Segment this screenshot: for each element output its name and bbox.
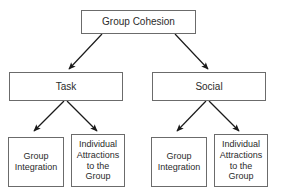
node-task-group-integration: Group Integration (8, 137, 64, 187)
node-social-individual-attractions-label: Individual Attractions to the Group (215, 139, 267, 181)
node-task-individual-attractions: Individual Attractions to the Group (71, 134, 125, 187)
node-group-cohesion: Group Cohesion (81, 10, 196, 34)
node-social-label: Social (153, 81, 265, 93)
group-cohesion-diagram: Group Cohesion Task Social Group Integra… (0, 0, 281, 195)
edge-root-to-social (175, 34, 208, 69)
node-group-cohesion-label: Group Cohesion (82, 16, 195, 28)
node-social: Social (152, 72, 266, 101)
edge-root-to-task (69, 34, 102, 69)
node-task-individual-attractions-label: Individual Attractions to the Group (72, 139, 124, 181)
node-social-group-integration-label: Group Integration (152, 151, 206, 172)
edge-social-to-individual-attractions (209, 101, 239, 131)
node-social-individual-attractions: Individual Attractions to the Group (214, 134, 268, 187)
edge-social-to-group-integration (177, 101, 206, 131)
edge-task-to-individual-attractions (67, 101, 97, 131)
node-task: Task (9, 72, 123, 101)
node-task-label: Task (10, 81, 122, 93)
node-task-group-integration-label: Group Integration (9, 151, 63, 172)
node-social-group-integration: Group Integration (151, 137, 207, 187)
edge-task-to-group-integration (34, 101, 64, 131)
